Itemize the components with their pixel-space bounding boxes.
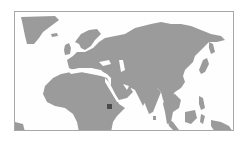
location-marker [107, 104, 112, 109]
sulawesi-landmass [200, 114, 205, 124]
indochina-landmass [163, 94, 181, 124]
kamchatka-landmass [209, 42, 215, 54]
greenland-landmass [21, 16, 59, 44]
world-map [15, 12, 234, 131]
iceland-landmass [51, 33, 58, 37]
south-america-edge-landmass [15, 122, 25, 131]
sri-lanka-landmass [153, 116, 156, 120]
map-frame [14, 11, 234, 131]
british-isles-landmass [64, 43, 71, 55]
sumatra-landmass [167, 118, 179, 131]
new-guinea-landmass [211, 120, 233, 131]
japan-landmass [199, 58, 209, 74]
indian-subcontinent-landmass [141, 86, 161, 114]
borneo-landmass [185, 110, 197, 124]
philippines-landmass [199, 96, 205, 110]
